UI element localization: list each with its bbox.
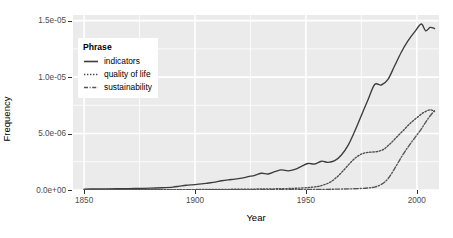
legend-title: Phrase [83, 42, 152, 52]
y-axis-tick-labels: 0.0e+005.0e-061.0e-051.5e-05 [14, 0, 66, 238]
legend: Phrase indicators quality of life sustai… [78, 38, 158, 98]
legend-label-quality-of-life: quality of life [104, 68, 151, 81]
x-tick-label: 1950 [283, 196, 329, 205]
x-axis-title: Year [73, 212, 439, 223]
legend-item-quality-of-life: quality of life [83, 68, 152, 81]
x-tick-mark [195, 190, 196, 194]
chart-figure: Frequency 0.0e+005.0e-061.0e-051.5e-05 P… [0, 0, 453, 238]
legend-item-indicators: indicators [83, 55, 152, 68]
y-tick-mark [68, 21, 72, 22]
dotted-line-key [83, 68, 99, 81]
y-tick-mark [68, 190, 72, 191]
x-tick-mark [84, 190, 85, 194]
legend-label-sustainability: sustainability [104, 81, 152, 94]
x-tick-mark [306, 190, 307, 194]
y-tick-label: 1.5e-05 [16, 16, 66, 25]
y-tick-mark [68, 134, 72, 135]
dashdot-line-key [83, 81, 99, 94]
x-tick-label: 1850 [61, 196, 107, 205]
legend-label-indicators: indicators [104, 55, 140, 68]
series-line-quality-of-life [84, 110, 434, 190]
x-tick-label: 1900 [172, 196, 218, 205]
legend-item-sustainability: sustainability [83, 81, 152, 94]
x-tick-label: 2000 [394, 196, 440, 205]
y-tick-label: 0.0e+00 [16, 186, 66, 195]
solid-line-key [83, 55, 99, 68]
y-tick-mark [68, 77, 72, 78]
y-axis-title: Frequency [0, 0, 14, 238]
y-tick-label: 5.0e-06 [16, 129, 66, 138]
y-tick-label: 1.0e-05 [16, 73, 66, 82]
x-tick-mark [417, 190, 418, 194]
